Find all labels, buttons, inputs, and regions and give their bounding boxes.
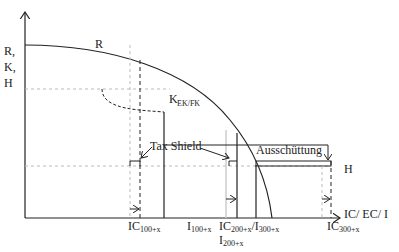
- capital-budget-diagram: R, K, H R K EK/FK H Tax Shield Ausschütt…: [0, 0, 399, 252]
- r-curve: [25, 45, 272, 218]
- tick-ic300: IC300+x: [327, 219, 360, 234]
- k-curve: [102, 89, 164, 112]
- ausschuettung-label: Ausschüttung: [256, 143, 322, 157]
- x-axis-label: IC/ EC/ I: [344, 207, 388, 221]
- tick-ic200-i300: IC200+x/I300+x: [219, 219, 279, 234]
- y-axis-label-1: R,: [4, 44, 15, 58]
- tick-i200: I200+x: [219, 233, 244, 248]
- h-label: H: [344, 162, 353, 176]
- tick-i100: I100+x: [187, 219, 212, 234]
- y-axis-label-2: K,: [4, 60, 16, 74]
- axes: [25, 12, 340, 218]
- tax-shield-arrow-right: [200, 148, 229, 158]
- ic200-bracket: [229, 161, 237, 166]
- k-label-sub: EK/FK: [177, 99, 200, 108]
- ic100-bracket: [130, 161, 140, 166]
- y-axis-label-3: H: [4, 76, 13, 90]
- tick-ic100: IC100+x: [128, 219, 161, 234]
- r-label: R: [95, 37, 103, 51]
- tax-shield-label: Tax Shield: [150, 139, 202, 153]
- ausschuettung-bar: [256, 161, 331, 166]
